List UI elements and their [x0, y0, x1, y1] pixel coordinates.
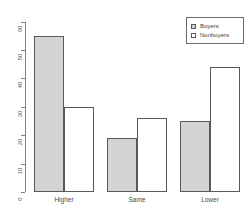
y-axis-line — [25, 22, 26, 192]
y-axis-label-10: 10 — [17, 164, 23, 178]
legend-label-nonbuyers: Nonbuyers — [200, 32, 229, 39]
y-axis-label-60: 60 — [17, 22, 23, 36]
bar-group-same — [107, 22, 167, 192]
x-axis-label-lower: Lower — [180, 196, 240, 204]
y-axis-label-50: 50 — [17, 50, 23, 64]
bar-lower-nonbuyers — [210, 67, 240, 192]
legend-label-buyers: Buyers — [200, 23, 219, 30]
y-axis-label-20: 20 — [17, 135, 23, 149]
bar-group-higher — [34, 22, 94, 192]
empty-square-icon — [191, 33, 196, 38]
bar-same-buyers — [107, 138, 137, 192]
bar-chart: 60 50 40 30 20 10 0 Higher Same Lower Bu… — [0, 0, 251, 219]
x-axis-label-same: Same — [107, 196, 167, 204]
bar-higher-nonbuyers — [64, 107, 94, 192]
bar-lower-buyers — [180, 121, 210, 192]
legend-entry-nonbuyers: Nonbuyers — [191, 31, 239, 39]
chart-legend: Buyers Nonbuyers — [186, 17, 244, 44]
bar-same-nonbuyers — [137, 118, 167, 192]
y-axis-label-40: 40 — [17, 78, 23, 92]
filled-square-icon — [191, 24, 196, 29]
bar-higher-buyers — [34, 36, 64, 192]
y-axis-label-0: 0 — [17, 192, 23, 206]
legend-entry-buyers: Buyers — [191, 22, 239, 30]
y-axis-label-30: 30 — [17, 107, 23, 121]
bar-group-lower — [180, 22, 240, 192]
x-axis-label-higher: Higher — [34, 196, 94, 204]
